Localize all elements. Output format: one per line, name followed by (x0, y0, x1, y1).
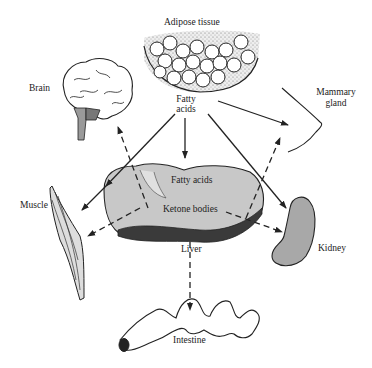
adipose-tissue-icon (144, 31, 260, 92)
kidney-label: Kidney (318, 243, 346, 254)
mammary-label-1: Mammary (311, 87, 361, 98)
liver-label: Liver (181, 244, 202, 255)
liver-fatty-acids-label: Fatty acids (171, 175, 212, 186)
muscle-label: Muscle (20, 200, 48, 211)
muscle-icon (50, 186, 84, 300)
kidney-icon (272, 197, 315, 266)
fatty-acids-label-top-2: acids (176, 104, 196, 115)
mammary-label-2: gland (311, 98, 361, 109)
liver-ketone-bodies-label: Ketone bodies (163, 204, 218, 215)
brain-icon (63, 59, 132, 140)
brain-label: Brain (29, 83, 50, 94)
adipose-tissue-label: Adipose tissue (164, 17, 220, 28)
intestine-label: Intestine (173, 335, 206, 346)
